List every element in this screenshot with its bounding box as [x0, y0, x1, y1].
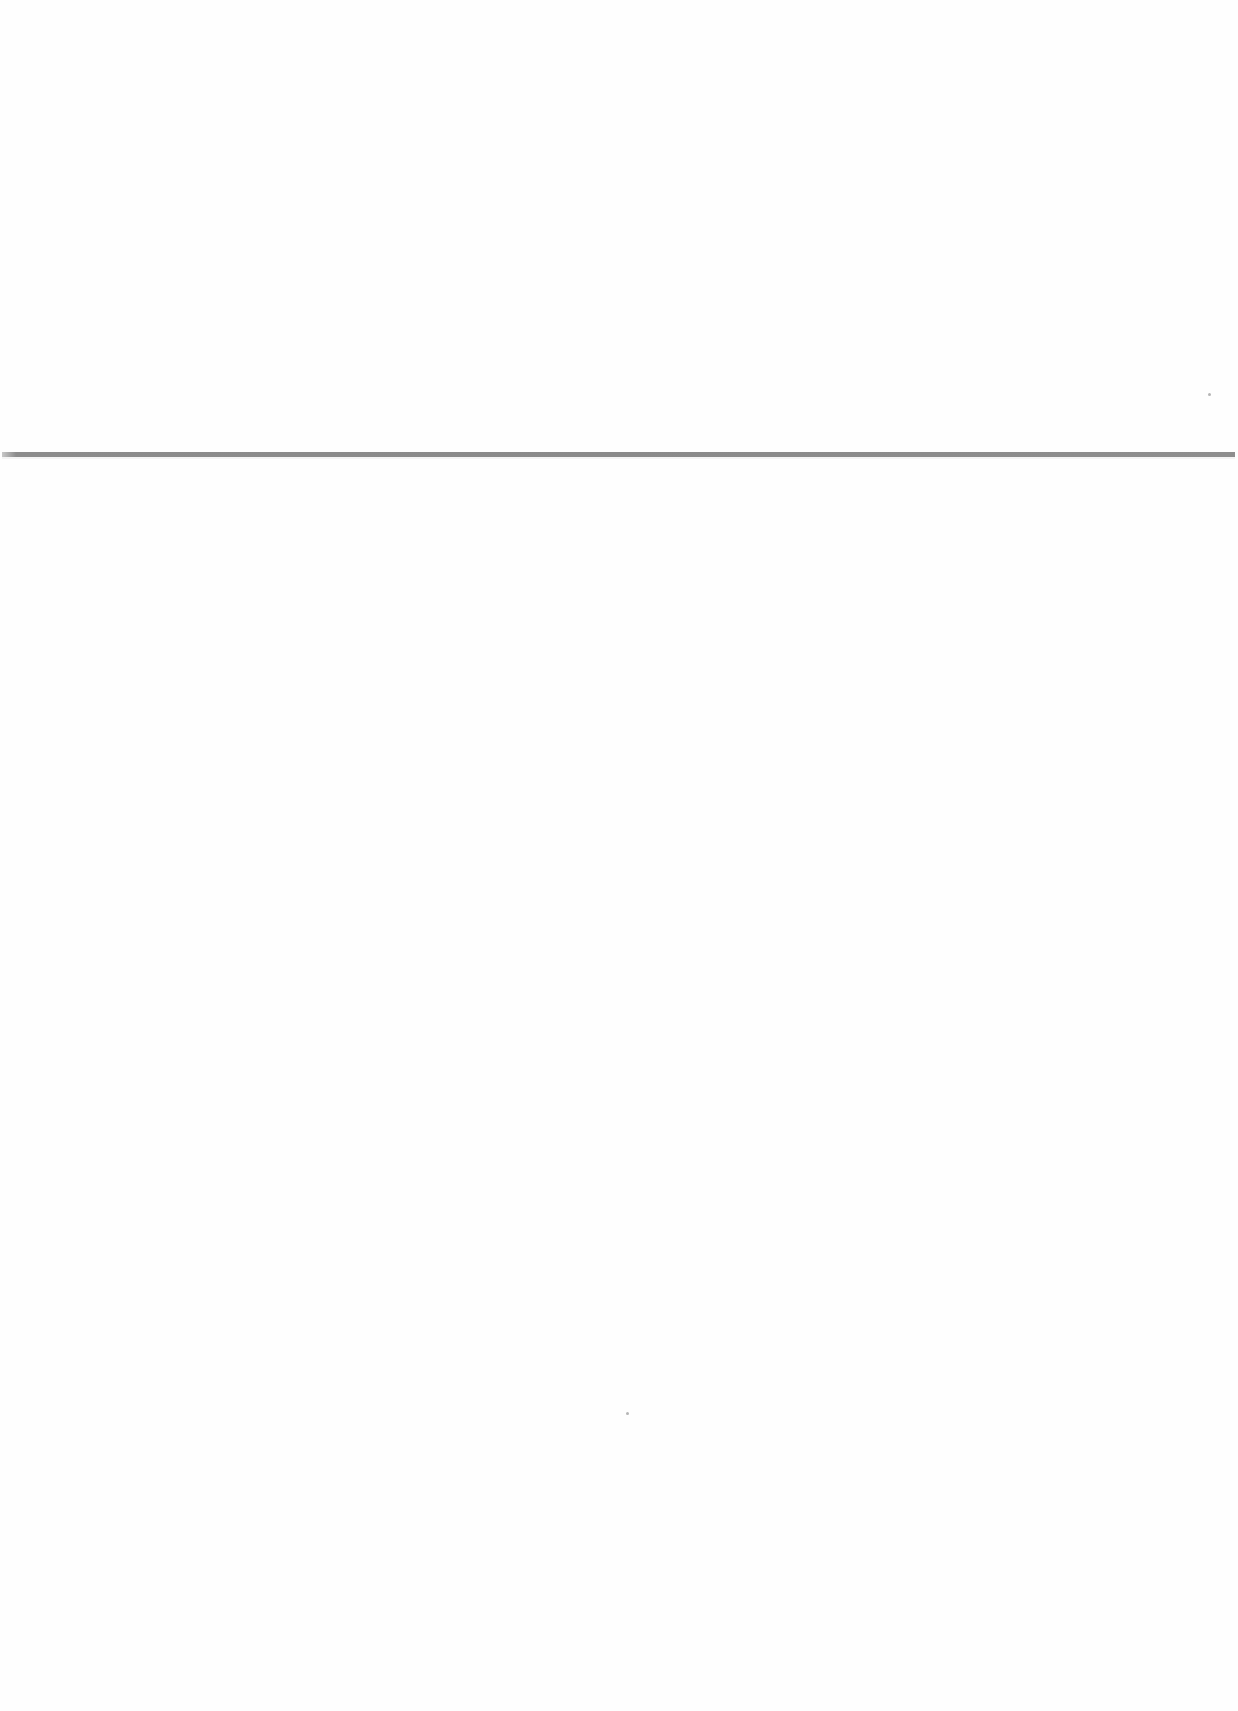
- blank-document-page: [0, 0, 1238, 1711]
- scan-speck: [1208, 393, 1211, 396]
- scan-speck: [626, 1412, 629, 1415]
- horizontal-rule-shadow: [2, 457, 1235, 459]
